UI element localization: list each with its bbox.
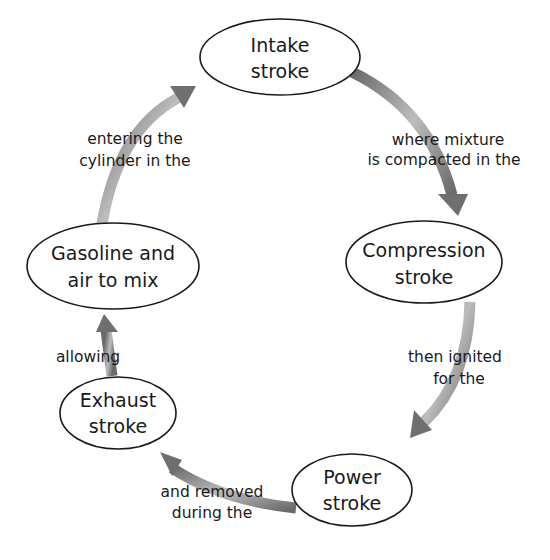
node-label-line1: Intake (251, 34, 310, 56)
engine-cycle-diagram: Intake stroke Compression stroke Power s… (0, 0, 550, 560)
edge-label-line2: is compacted in the (367, 151, 520, 169)
node-label-line2: stroke (251, 60, 309, 82)
node-power-stroke: Power stroke (292, 454, 412, 526)
edge-label-gasoline-intake: entering the cylinder in the (79, 130, 190, 170)
node-label-line2: stroke (89, 415, 147, 437)
node-label-line2: stroke (395, 266, 453, 288)
edge-label-line1: where mixture (392, 131, 505, 149)
node-compression-stroke: Compression stroke (346, 221, 502, 303)
edge-label-line1: and removed (161, 483, 264, 501)
node-label-line2: air to mix (68, 269, 159, 291)
edge-label-line1: entering the (87, 130, 183, 148)
edge-label-line2: during the (172, 504, 252, 522)
node-label-line1: Exhaust (80, 389, 156, 411)
node-exhaust-stroke: Exhaust stroke (60, 377, 176, 449)
node-label-line1: Power (323, 466, 381, 488)
edge-label-exhaust-gasoline: allowing (56, 348, 120, 366)
edge-label-line1: allowing (56, 348, 120, 366)
node-label-line1: Gasoline and (51, 242, 175, 264)
node-label-line2: stroke (323, 492, 381, 514)
edge-label-line2: for the (433, 370, 485, 388)
edge-label-intake-compression: where mixture is compacted in the (367, 131, 520, 169)
node-intake-stroke: Intake stroke (200, 19, 360, 95)
edge-label-line1: then ignited (408, 348, 502, 366)
edge-label-line2: cylinder in the (79, 152, 190, 170)
node-label-line1: Compression (362, 239, 485, 261)
arrow-exhaust-to-gasoline (96, 314, 118, 376)
node-gasoline-air-mix: Gasoline and air to mix (27, 223, 199, 309)
